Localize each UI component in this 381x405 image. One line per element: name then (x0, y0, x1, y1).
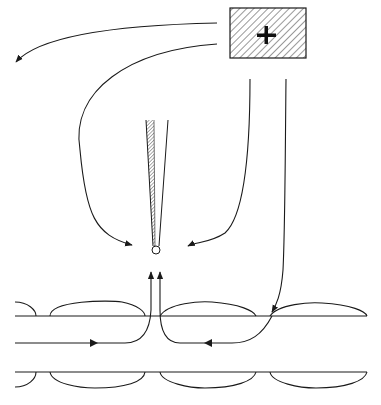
myelin-upper-2 (160, 302, 256, 316)
current-path-tip-right (188, 79, 250, 246)
myelin-lower-1 (50, 372, 145, 388)
axon (15, 301, 367, 388)
current-path-left (16, 23, 217, 62)
myelin-upper-0 (15, 302, 36, 316)
axial-current-left (15, 272, 151, 343)
myelin-upper-3 (270, 303, 367, 316)
pipette-tip (152, 246, 160, 254)
arrowhead-left-axial (90, 339, 98, 347)
myelin-lower-2 (160, 372, 256, 388)
axial-current-right (160, 272, 272, 343)
recording-pipette (146, 120, 168, 254)
myelin-lower-3 (270, 372, 367, 388)
arrowhead-right-axial (204, 339, 212, 347)
stimulating-electrode (230, 8, 306, 58)
current-path-to-axon (272, 79, 286, 312)
diagram-canvas (0, 0, 381, 405)
myelin-lower-0 (15, 372, 36, 387)
myelin-upper-1 (50, 301, 145, 316)
